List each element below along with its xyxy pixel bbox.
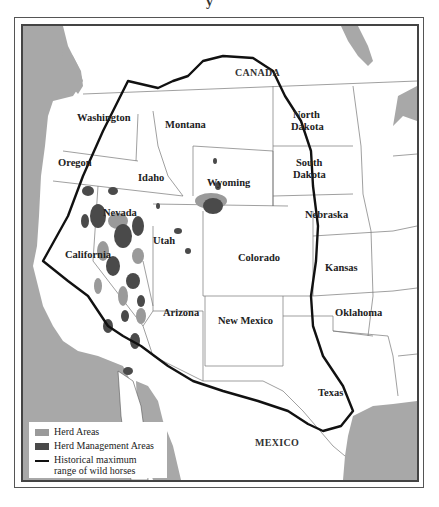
historical-range-line-icon (35, 460, 49, 462)
label-oregon: Oregon (58, 157, 92, 168)
label-utah: Utah (153, 235, 175, 246)
label-kansas: Kansas (325, 262, 358, 273)
legend-label: Historical maximum range of wild horses (54, 454, 154, 476)
legend-label: Herd Management Areas (54, 440, 154, 452)
label-south-dakota-1: South (296, 157, 322, 168)
label-nevada: Nevada (103, 207, 138, 218)
label-texas: Texas (318, 387, 343, 398)
label-idaho: Idaho (138, 172, 164, 183)
map-frame: CANADA MEXICO Washington Oregon Californ… (21, 24, 419, 482)
gulf-of-mexico (343, 401, 417, 480)
hudson-bay-edge (341, 26, 373, 66)
title-fragment: y (206, 0, 213, 10)
label-new-mexico: New Mexico (218, 315, 273, 326)
label-south-dakota-2: Dakota (293, 169, 326, 180)
legend-item-historical-range: Historical maximum range of wild horses (33, 454, 163, 468)
label-canada: CANADA (235, 67, 281, 78)
label-nebraska: Nebraska (305, 209, 349, 220)
label-arizona: Arizona (163, 307, 200, 318)
legend-label: Herd Areas (54, 426, 99, 438)
label-washington: Washington (77, 112, 131, 123)
label-colorado: Colorado (238, 252, 280, 263)
herd-management-areas (81, 158, 223, 375)
herd-management-areas-swatch-icon (35, 443, 49, 450)
label-mexico: MEXICO (255, 437, 299, 448)
label-north-dakota-2: Dakota (291, 121, 324, 132)
legend-item-herd-areas: Herd Areas (33, 426, 163, 440)
label-montana: Montana (165, 119, 207, 130)
legend-item-herd-management-areas: Herd Management Areas (33, 440, 163, 454)
label-oklahoma: Oklahoma (335, 307, 383, 318)
map-legend: Herd Areas Herd Management Areas Histori… (29, 422, 167, 478)
wild-horse-range-map: CANADA MEXICO Washington Oregon Californ… (23, 26, 417, 480)
label-california: California (65, 249, 112, 260)
label-wyoming: Wyoming (207, 177, 251, 188)
lake-superior (393, 86, 417, 126)
label-north-dakota-1: North (293, 109, 320, 120)
herd-areas-swatch-icon (35, 429, 49, 436)
